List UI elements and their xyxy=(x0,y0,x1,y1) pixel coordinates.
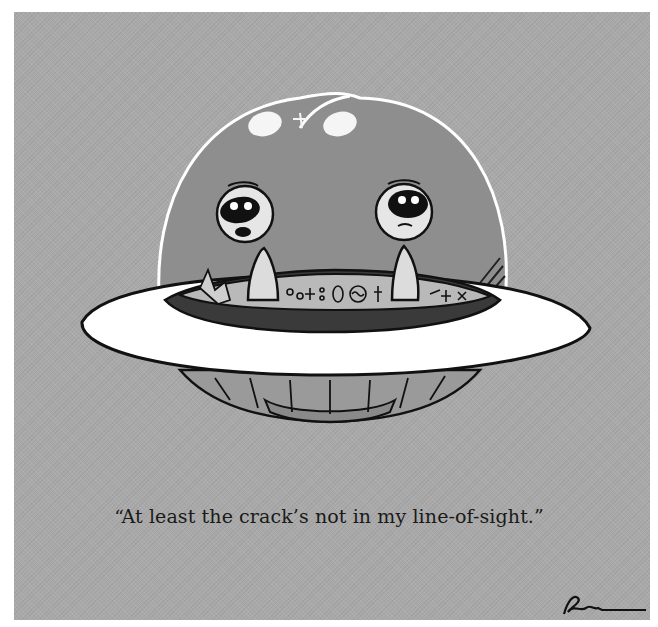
cartoon-caption: “At least the crack’s not in my line-of-… xyxy=(0,505,658,527)
saucer-underside xyxy=(180,370,480,422)
ufo-illustration xyxy=(0,0,658,627)
artist-signature xyxy=(560,590,648,618)
